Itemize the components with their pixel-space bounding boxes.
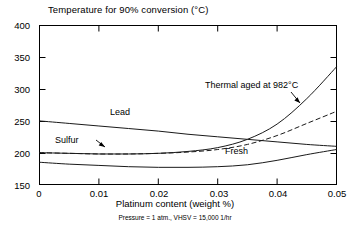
data-curves [40,67,337,168]
curve-sulfur [40,111,337,154]
annotation-arrows [96,92,300,147]
curve-lead [40,121,337,146]
plot-frame [40,26,337,185]
thermal-aged-arrow-head [294,97,300,103]
x-axis-ticks [99,26,277,185]
chart-figure: Temperature for 90% conversion (°C) 400 … [0,0,350,230]
curve-thermal-aged-at-982c [40,67,337,154]
chart-plot-svg [0,0,350,230]
y-axis-ticks [40,26,337,185]
